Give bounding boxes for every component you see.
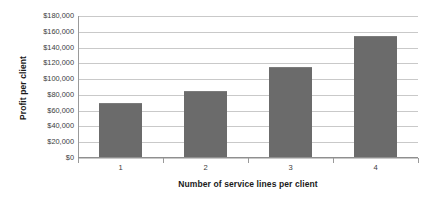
y-axis-tick-label: $120,000 (26, 59, 74, 67)
y-axis-tick-labels: $180,000$160,000$140,000$120,000$100,000… (26, 16, 74, 158)
y-axis-tick-label: $80,000 (26, 91, 74, 99)
y-axis-tick-label: $0 (26, 154, 74, 162)
x-axis-tick-label: 1 (78, 163, 163, 172)
y-axis-tick-label: $60,000 (26, 107, 74, 115)
bar-chart-figure: Profit per client $180,000$160,000$140,0… (0, 0, 442, 201)
x-axis-title: Number of service lines per client (78, 179, 418, 189)
bar-slot (78, 16, 163, 158)
x-axis-tick-label: 2 (163, 163, 248, 172)
bar-slot (163, 16, 248, 158)
x-axis-tick-label: 3 (248, 163, 333, 172)
x-axis-tick (418, 158, 419, 163)
y-axis-tick-label: $100,000 (26, 75, 74, 83)
bar (99, 103, 142, 158)
y-axis-tick-label: $180,000 (26, 12, 74, 20)
y-axis-tick-label: $40,000 (26, 122, 74, 130)
bar-slot (333, 16, 418, 158)
y-axis-tick-label: $140,000 (26, 44, 74, 52)
bar (269, 67, 312, 158)
bar-slot (248, 16, 333, 158)
bar (354, 36, 397, 158)
y-axis-tick-label: $160,000 (26, 28, 74, 36)
x-axis-tick-labels: 1234 (78, 163, 418, 172)
bars-layer (78, 16, 418, 158)
plot-area (78, 16, 418, 158)
bar (184, 91, 227, 158)
y-axis-tick-label: $20,000 (26, 138, 74, 146)
x-axis-tick-label: 4 (333, 163, 418, 172)
